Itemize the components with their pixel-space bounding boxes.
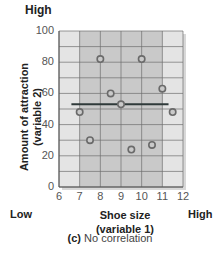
x-tick-label: 8 xyxy=(90,190,110,202)
data-point xyxy=(87,137,93,143)
data-point xyxy=(118,101,124,107)
data-point xyxy=(76,109,82,115)
y-tick-label: 60 xyxy=(30,86,54,98)
caption-label: (c) xyxy=(68,232,81,244)
caption-text: No correlation xyxy=(81,232,153,244)
y-tick-label: 100 xyxy=(30,24,54,36)
y-tick-label: 20 xyxy=(30,149,54,161)
x-tick-label: 9 xyxy=(111,190,131,202)
data-point xyxy=(169,109,175,115)
x-tick-label: 10 xyxy=(132,190,152,202)
x-axis-title-line1: Shoe size xyxy=(70,208,180,222)
y-tick-label: 40 xyxy=(30,118,54,130)
x-tick-label: 12 xyxy=(173,190,193,202)
x-tick-label: 6 xyxy=(49,190,69,202)
data-point xyxy=(107,90,113,96)
x-tick-label: 11 xyxy=(152,190,172,202)
data-point xyxy=(97,56,103,62)
data-point xyxy=(149,142,155,148)
data-point xyxy=(159,86,165,92)
x-axis-high-label: High xyxy=(188,208,212,220)
y-tick-label: 80 xyxy=(30,55,54,67)
data-point xyxy=(128,146,134,152)
data-point xyxy=(138,56,144,62)
x-axis-low-label: Low xyxy=(10,208,32,220)
figure-caption: (c) No correlation xyxy=(40,232,180,244)
x-tick-label: 7 xyxy=(70,190,90,202)
